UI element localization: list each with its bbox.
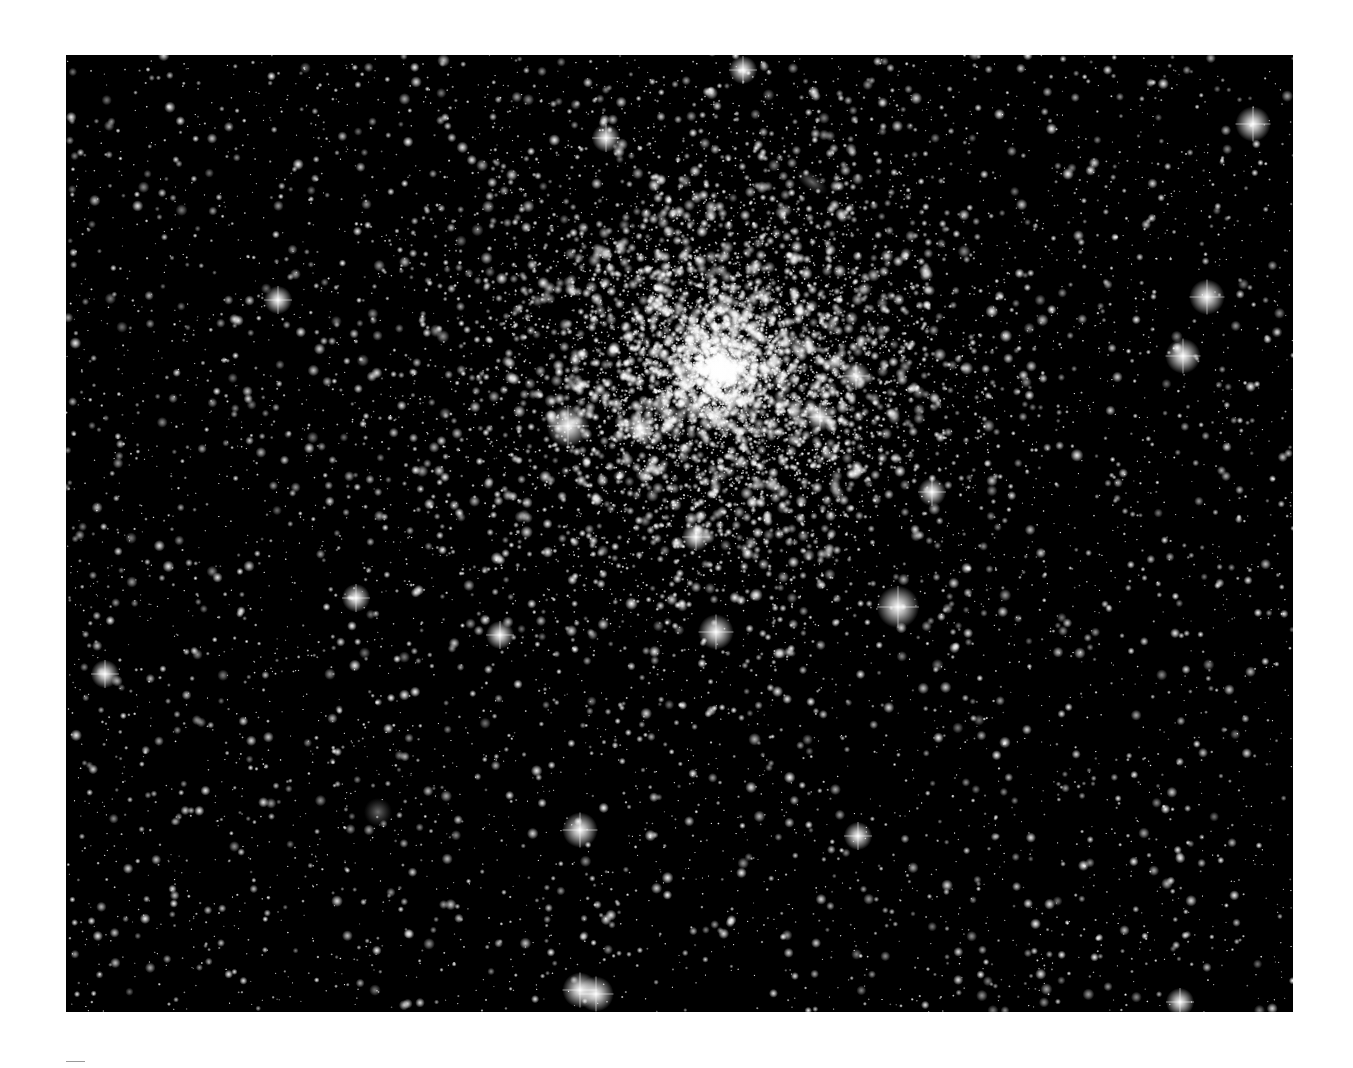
star-field-canvas: [66, 55, 1293, 1012]
star-cluster-photograph: [66, 55, 1293, 1012]
caption-divider: [66, 1061, 85, 1062]
